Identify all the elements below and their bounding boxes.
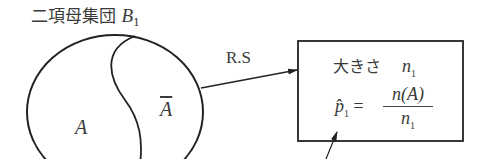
sample-size-line: 大きさ n1 [333, 53, 416, 79]
title-text: 二項母集団 [31, 6, 116, 26]
divider-curve [111, 36, 141, 159]
random-sampling-arrow [201, 70, 297, 88]
region-a-label: A [75, 116, 87, 139]
estimator-lhs: p̂1 = [335, 96, 364, 119]
region-not-a-label: A [160, 98, 172, 121]
population-title: 二項母集団 B1 [31, 2, 140, 29]
random-sampling-label: R.S [226, 48, 251, 68]
estimator-symbol: p̂ [335, 96, 344, 116]
pointer-arrow [326, 132, 337, 159]
title-subscript: 1 [133, 16, 140, 29]
fraction-numerator: n(A) [383, 84, 433, 107]
sample-size-var: n1 [402, 56, 416, 76]
equals-sign: = [354, 96, 364, 116]
sample-size-label: 大きさ [333, 57, 381, 76]
fraction-denominator: n1 [383, 107, 433, 137]
title-symbol: B [121, 5, 133, 26]
estimator-subscript: 1 [344, 108, 349, 119]
population-ellipse [27, 35, 203, 159]
estimator-fraction: n(A) n1 [383, 84, 433, 137]
